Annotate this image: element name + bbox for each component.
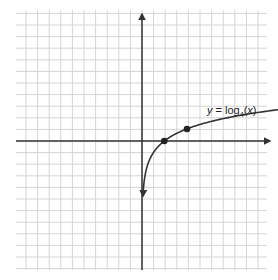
function-label: y = log4(x) (207, 104, 257, 118)
label-func: log (225, 104, 240, 116)
label-equals: = (216, 104, 222, 116)
graph-canvas (0, 0, 278, 280)
point-4-1 (184, 126, 191, 133)
point-1-0 (161, 138, 168, 145)
label-y: y (207, 104, 213, 116)
label-paren-close: ) (253, 104, 257, 116)
